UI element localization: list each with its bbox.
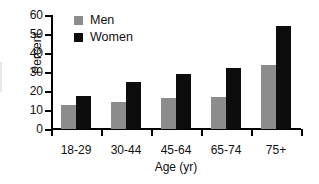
- bar-men-65-74: [211, 97, 226, 129]
- edge-scan-artifact: [0, 62, 2, 92]
- y-axis-tick-label: 20: [21, 84, 43, 98]
- legend-label-women: Women: [90, 31, 133, 44]
- bar-women-18-29: [76, 96, 91, 129]
- bar-women-75+: [276, 26, 291, 129]
- legend-item-women: Women: [74, 30, 133, 45]
- y-axis-tick: [45, 91, 51, 93]
- x-axis-tick-label: 75+: [266, 143, 286, 157]
- legend-label-men: Men: [90, 14, 114, 27]
- y-axis-tick: [45, 53, 51, 55]
- bar-men-30-44: [111, 102, 126, 129]
- y-axis-tick-label: 40: [21, 46, 43, 60]
- x-axis-tick: [301, 129, 303, 136]
- x-axis-tick-label: 30-44: [111, 143, 142, 157]
- bar-men-75+: [261, 65, 276, 129]
- y-axis-tick-label: 30: [21, 65, 43, 79]
- y-axis-tick-label: 0: [21, 122, 43, 136]
- bar-women-30-44: [126, 82, 141, 129]
- chart-legend: Men Women: [74, 13, 133, 47]
- x-axis-tick: [151, 129, 153, 136]
- x-axis-tick-label: 18-29: [61, 143, 92, 157]
- bar-women-65-74: [226, 68, 241, 129]
- y-axis-tick: [45, 34, 51, 36]
- x-axis-tick: [51, 129, 53, 136]
- y-axis-tick-label: 60: [21, 8, 43, 22]
- bar-chart-figure: Percent 605040302010018-2930-4445-6465-7…: [0, 0, 319, 184]
- bar-women-45-64: [176, 74, 191, 129]
- x-axis-tick: [101, 129, 103, 136]
- bar-men-18-29: [61, 105, 76, 129]
- y-axis-tick: [45, 72, 51, 74]
- y-axis-tick-label: 10: [21, 103, 43, 117]
- x-axis-tick: [251, 129, 253, 136]
- y-axis-tick: [45, 110, 51, 112]
- x-axis-tick: [201, 129, 203, 136]
- x-axis-tick-label: 45-64: [161, 143, 192, 157]
- bar-men-45-64: [161, 98, 176, 129]
- x-axis-title: Age (yr): [51, 160, 301, 174]
- legend-swatch-men-icon: [74, 16, 83, 25]
- y-axis-tick: [45, 15, 51, 17]
- y-axis-tick-label: 50: [21, 27, 43, 41]
- legend-swatch-women-icon: [74, 33, 83, 42]
- legend-item-men: Men: [74, 13, 133, 28]
- x-axis-tick-label: 65-74: [211, 143, 242, 157]
